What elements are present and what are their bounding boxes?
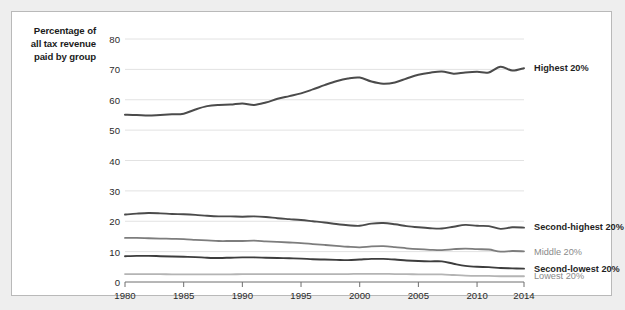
x-tick-label: 2005 bbox=[408, 290, 429, 301]
x-tick-label: 2010 bbox=[466, 290, 487, 301]
series-line bbox=[125, 67, 524, 116]
y-tick-label: 40 bbox=[94, 155, 120, 166]
x-tick-marks bbox=[125, 282, 524, 287]
y-axis-title-line-2: all tax revenue bbox=[12, 37, 96, 50]
x-tick-label: 2014 bbox=[513, 290, 534, 301]
y-tick-label: 20 bbox=[94, 216, 120, 227]
x-tick-label: 1995 bbox=[290, 290, 311, 301]
y-tick-label: 60 bbox=[94, 94, 120, 105]
legend-label-highest-20: Highest 20% bbox=[534, 63, 589, 73]
x-tick-label: 1990 bbox=[232, 290, 253, 301]
y-tick-label: 30 bbox=[94, 185, 120, 196]
series-line bbox=[125, 256, 524, 269]
series-lines bbox=[125, 67, 524, 277]
y-tick-label: 50 bbox=[94, 125, 120, 136]
y-tick-label: 10 bbox=[94, 246, 120, 257]
series-line bbox=[125, 238, 524, 252]
y-tick-label: 0 bbox=[94, 277, 120, 288]
chart-panel: Percentage of all tax revenue paid by gr… bbox=[11, 11, 612, 296]
legend-label-lowest-20: Lowest 20% bbox=[534, 271, 584, 281]
legend-label-middle-20: Middle 20% bbox=[534, 247, 582, 257]
y-tick-label: 70 bbox=[94, 64, 120, 75]
x-tick-label: 1985 bbox=[173, 290, 194, 301]
plot-area: 01020304050607080 1980198519901995200020… bbox=[114, 28, 614, 288]
x-tick-label: 1980 bbox=[114, 290, 135, 301]
y-axis-title-line-3: paid by group bbox=[12, 50, 96, 63]
y-axis-title: Percentage of all tax revenue paid by gr… bbox=[12, 24, 96, 64]
y-tick-label: 80 bbox=[94, 34, 120, 45]
gridlines bbox=[125, 39, 524, 252]
legend-label-second-highest-20: Second-highest 20% bbox=[534, 222, 624, 232]
y-axis-title-line-1: Percentage of bbox=[12, 24, 96, 37]
series-line bbox=[125, 274, 524, 276]
x-tick-label: 2000 bbox=[349, 290, 370, 301]
